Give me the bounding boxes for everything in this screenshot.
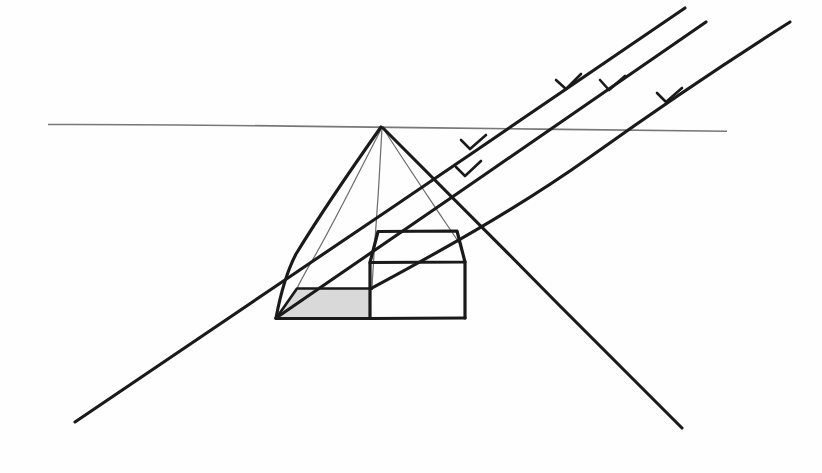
perspective-shadow-figure: [0, 0, 822, 473]
diagram-canvas: [0, 0, 822, 473]
canvas-background: [0, 0, 822, 473]
box-bottom-edge: [370, 318, 465, 319]
